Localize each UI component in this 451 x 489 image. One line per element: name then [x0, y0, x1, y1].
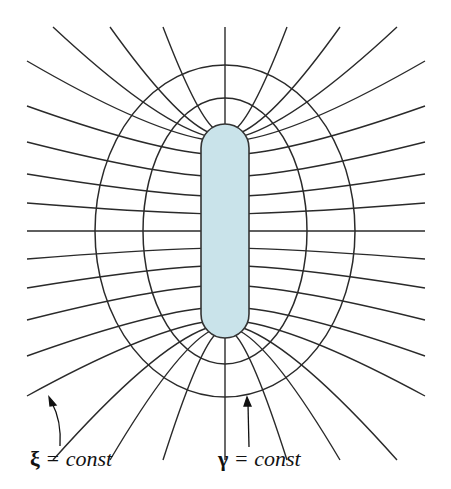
xi-line — [163, 334, 216, 460]
xi-line — [27, 286, 201, 320]
xi-line — [27, 106, 201, 154]
xi-arrow — [52, 403, 60, 446]
xi-line — [27, 266, 201, 288]
xi-line — [110, 331, 210, 460]
xi-line — [242, 27, 341, 132]
rod-body — [201, 124, 249, 338]
xi-text: = const — [40, 446, 112, 471]
xi-line — [27, 203, 201, 214]
xi-line — [27, 309, 201, 357]
xi-line — [27, 142, 201, 176]
coordinate-diagram — [0, 0, 451, 489]
gamma-symbol: γ — [218, 446, 228, 471]
gamma-arrowhead-icon — [244, 397, 251, 406]
gamma-const-label: γ = const — [218, 446, 301, 472]
gamma-text: = const — [228, 446, 300, 471]
xi-line — [110, 27, 209, 132]
xi-line — [53, 328, 207, 460]
xi-arrowhead-icon — [49, 397, 56, 406]
xi-line — [243, 328, 397, 460]
xi-line — [236, 27, 287, 129]
xi-line — [27, 61, 203, 139]
xi-line — [240, 331, 340, 460]
xi-line — [249, 266, 425, 288]
xi-line — [163, 27, 214, 129]
arrows — [49, 397, 251, 447]
xi-line — [247, 61, 425, 139]
xi-line — [27, 248, 201, 259]
xi-const-label: ξ = const — [30, 446, 112, 472]
gamma-arrow — [248, 404, 249, 447]
xi-line — [249, 248, 425, 259]
xi-line — [249, 174, 425, 196]
xi-line — [234, 334, 287, 460]
xi-line — [249, 203, 425, 214]
xi-symbol: ξ — [30, 446, 40, 471]
xi-line — [27, 174, 201, 196]
